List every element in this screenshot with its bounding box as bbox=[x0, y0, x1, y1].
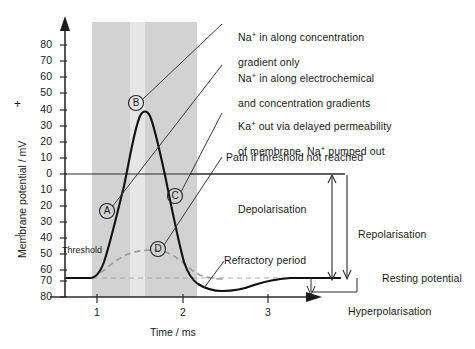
band-depolarisation bbox=[92, 22, 130, 297]
y-tick-60-pos: 60 bbox=[28, 70, 52, 82]
threshold-label: Threshold bbox=[62, 245, 102, 255]
y-tick-70-pos: 70 bbox=[28, 54, 52, 66]
annotation-ka-text: Ka bbox=[238, 120, 251, 132]
y-tick-10-neg: 10 bbox=[28, 183, 52, 195]
annotation-na-rest: in along concentration bbox=[256, 31, 364, 43]
y-tick-0: 0 bbox=[28, 167, 52, 179]
repolarisation-arrow bbox=[343, 175, 351, 279]
marker-label-d: D bbox=[151, 242, 165, 256]
annotation-path-threshold: Path if threshold not reached bbox=[226, 151, 363, 164]
marker-label-a: A bbox=[100, 204, 114, 218]
depolarisation-arrow bbox=[328, 175, 336, 280]
y-tick-20-pos: 20 bbox=[28, 135, 52, 147]
y-axis-arrowhead bbox=[60, 16, 70, 31]
band-peak bbox=[130, 22, 145, 297]
y-tick-50-neg: 50 bbox=[28, 247, 52, 259]
annotation-na-concentration-line1: Na+ in along concentration bbox=[238, 31, 364, 43]
y-tick-30-pos: 30 bbox=[28, 119, 52, 131]
y-tick-80-neg: 80 bbox=[28, 290, 52, 302]
y-tick-30-neg: 30 bbox=[28, 215, 52, 227]
resting-potential-label: Resting potential bbox=[382, 272, 462, 285]
positive-sign: + bbox=[14, 97, 21, 111]
annotation-ka-rest: out via delayed permeability bbox=[256, 120, 392, 132]
y-tick-40-neg: 40 bbox=[28, 231, 52, 243]
y-tick-80-pos: 80 bbox=[28, 38, 52, 50]
refractory-period-label: Refractory period bbox=[224, 254, 306, 267]
depolarisation-label: Depolarisation bbox=[238, 203, 307, 216]
action-potential-diagram: 80 70 60 50 40 30 20 10 0 10 20 30 40 50… bbox=[0, 0, 475, 349]
leader-line-refractory bbox=[204, 261, 224, 288]
y-axis-title: Membrane potential / mV bbox=[16, 141, 28, 258]
y-tick-20-neg: 20 bbox=[28, 199, 52, 211]
annotation-na-text: Na bbox=[238, 31, 252, 43]
annotation-na2-text: Na bbox=[238, 72, 252, 84]
y-tick-10-pos: 10 bbox=[28, 151, 52, 163]
y-tick-70-neg: 70 bbox=[28, 274, 52, 286]
y-tick-40-pos: 40 bbox=[28, 103, 52, 115]
x-tick-3: 3 bbox=[258, 306, 278, 318]
x-tick-1: 1 bbox=[87, 306, 107, 318]
annotation-ka-line1: Ka+ out via delayed permeability bbox=[238, 120, 392, 132]
marker-label-b: B bbox=[129, 96, 143, 110]
x-tick-2: 2 bbox=[173, 306, 193, 318]
y-axis-ticks bbox=[60, 45, 67, 297]
marker-label-c: C bbox=[168, 189, 182, 203]
y-tick-50-pos: 50 bbox=[28, 86, 52, 98]
hyperpolarisation-label: Hyperpolarisation bbox=[348, 305, 431, 318]
repolarisation-label: Repolarisation bbox=[358, 228, 427, 241]
annotation-na2-rest: in along electrochemical bbox=[256, 72, 374, 84]
x-axis-title: Time / ms bbox=[150, 326, 196, 338]
annotation-na2-line1: Na+ in along electrochemical bbox=[238, 72, 374, 84]
